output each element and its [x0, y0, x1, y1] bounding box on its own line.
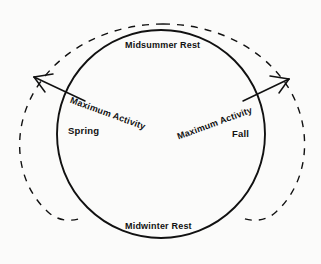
dashed-expansion-arcs: [20, 24, 305, 220]
label-spring: Spring: [68, 126, 99, 136]
expansion-arc-right-path: [163, 24, 305, 220]
label-midsummer-rest: Midsummer Rest: [125, 41, 200, 50]
label-fall: Fall: [232, 129, 249, 139]
spring-arrow-head-upper: [34, 74, 53, 77]
seasonal-cycle-diagram: Midsummer Rest Midwinter Rest Spring Fal…: [0, 0, 321, 264]
fall-arrow-shaft: [243, 79, 289, 101]
label-midwinter-rest: Midwinter Rest: [125, 222, 192, 231]
